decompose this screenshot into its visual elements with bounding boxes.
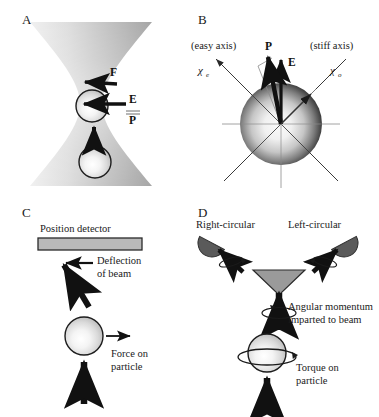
- laser-beam-hourglass: [0, 0, 379, 417]
- torque-line1: Torque on: [296, 362, 339, 373]
- particle-c: [65, 317, 103, 355]
- left-circular-label: Left-circular: [288, 219, 342, 230]
- position-detector-bar: [38, 238, 142, 250]
- angular-momentum-line2: imparted to beam: [288, 314, 361, 325]
- chi-e-subscript: e: [206, 71, 209, 79]
- field-label-a: E: [129, 93, 137, 105]
- right-circular-label: Right-circular: [196, 219, 255, 230]
- torque-line2: particle: [296, 375, 328, 386]
- force-label-a: F: [110, 66, 117, 78]
- trapped-particle: [76, 90, 108, 122]
- force-on-particle-line1: Force on: [111, 348, 149, 359]
- stiff-axis-label: (stiff axis): [310, 40, 354, 52]
- easy-axis-label: (easy axis): [191, 40, 237, 52]
- angular-momentum-line1: Angular momentum: [288, 301, 373, 312]
- chi-o-subscript: o: [338, 71, 342, 79]
- panel-c-letter: C: [22, 205, 31, 220]
- field-label-b: E: [288, 56, 296, 68]
- panel-a: A F E: [0, 0, 379, 417]
- polarization-label-a: P: [129, 114, 136, 126]
- panel-b-letter: B: [198, 12, 207, 27]
- polarization-label-b: P: [265, 40, 272, 52]
- free-particle: [79, 146, 111, 178]
- position-detector-label: Position detector: [40, 223, 111, 234]
- deflection-label-line1: Deflection: [97, 255, 142, 266]
- panel-d-letter: D: [198, 205, 207, 220]
- force-on-particle-line2: particle: [111, 361, 143, 372]
- force-arrow-a: [85, 82, 117, 84]
- deflection-label-line2: of beam: [97, 268, 131, 279]
- figure-root: A F E: [0, 0, 379, 417]
- figure-canvas: A F E: [0, 0, 379, 417]
